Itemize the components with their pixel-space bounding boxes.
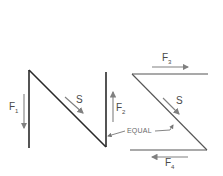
n-member bbox=[29, 70, 106, 148]
s-label-right: S bbox=[176, 95, 183, 106]
s-label-left: S bbox=[76, 94, 83, 105]
equal-leader-left bbox=[108, 131, 125, 136]
diagram-canvas: F1 F2 S F3 F4 S EQUAL bbox=[0, 0, 223, 176]
f1-label: F1 bbox=[9, 101, 19, 114]
f2-label: F2 bbox=[116, 102, 126, 115]
f4-label: F4 bbox=[165, 157, 175, 170]
equal-leader-right bbox=[155, 125, 173, 131]
f3-label: F3 bbox=[162, 52, 172, 65]
n-diagonal bbox=[29, 70, 106, 147]
z-diagonal bbox=[132, 74, 207, 150]
equal-annotation: EQUAL bbox=[127, 127, 152, 135]
z-member bbox=[130, 74, 208, 150]
